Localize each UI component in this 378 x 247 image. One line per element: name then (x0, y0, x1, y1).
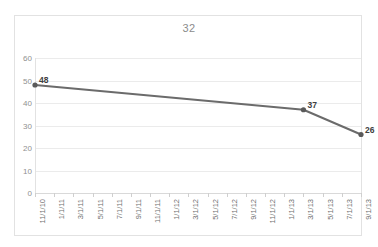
x-tick-label-13: 1/1/13 (287, 199, 296, 220)
x-tick-11 (246, 193, 247, 197)
x-tick-3 (93, 193, 94, 197)
x-tick-label-1: 1/1/11 (57, 199, 66, 219)
x-tick-label-2: 3/1/11 (76, 199, 85, 219)
x-tick-label-16: 7/1/13 (345, 199, 354, 220)
x-axis-labels: 11/1/101/1/113/1/115/1/117/1/119/1/1111/… (35, 199, 361, 245)
x-tick-16 (342, 193, 343, 197)
x-tick-14 (303, 193, 304, 197)
x-tick-label-7: 1/1/12 (172, 199, 181, 220)
x-tick-12 (265, 193, 266, 197)
y-tick-label-50: 50 (10, 76, 32, 85)
chart-container: 32 6050403020100 11/1/101/1/113/1/115/1/… (0, 0, 378, 247)
x-tick-label-5: 9/1/11 (134, 199, 143, 219)
chart-title: 32 (0, 22, 378, 34)
x-tick-label-6: 11/1/11 (153, 199, 162, 223)
y-tick-label-40: 40 (10, 99, 32, 108)
x-tick-9 (208, 193, 209, 197)
x-tick-6 (150, 193, 151, 197)
y-axis-labels: 6050403020100 (6, 0, 32, 247)
data-label-37: 37 (307, 100, 316, 110)
x-tick-1 (54, 193, 55, 197)
x-tick-label-14: 3/1/13 (306, 199, 315, 220)
x-tick-label-10: 7/1/12 (230, 199, 239, 220)
x-tick-17 (361, 193, 362, 197)
y-tick-label-60: 60 (10, 54, 32, 63)
y-tick-label-10: 10 (10, 166, 32, 175)
y-tick-label-20: 20 (10, 144, 32, 153)
x-tick-label-15: 5/1/13 (326, 199, 335, 220)
x-tick-label-17: 9/1/13 (364, 199, 373, 220)
x-tick-label-4: 7/1/11 (115, 199, 124, 219)
x-tick-0 (35, 193, 36, 197)
x-tick-label-11: 9/1/12 (249, 199, 258, 220)
data-point-marker (301, 107, 306, 112)
y-tick-label-0: 0 (10, 189, 32, 198)
data-label-48: 48 (39, 75, 48, 85)
x-tick-4 (112, 193, 113, 197)
x-tick-label-0: 11/1/10 (38, 199, 47, 223)
x-tick-15 (323, 193, 324, 197)
x-tick-label-9: 5/1/12 (211, 199, 220, 220)
x-tick-10 (227, 193, 228, 197)
x-tick-13 (284, 193, 285, 197)
data-label-26: 26 (365, 125, 374, 135)
x-tick-label-3: 5/1/11 (96, 199, 105, 219)
y-tick-label-30: 30 (10, 121, 32, 130)
x-tick-7 (169, 193, 170, 197)
x-tick-label-12: 11/1/12 (268, 199, 277, 223)
series-polyline (35, 85, 361, 135)
x-tick-2 (73, 193, 74, 197)
x-tick-5 (131, 193, 132, 197)
x-tick-8 (188, 193, 189, 197)
data-point-marker (32, 82, 37, 87)
data-point-marker (358, 132, 363, 137)
series-line-32 (35, 58, 361, 193)
x-tick-label-8: 3/1/12 (191, 199, 200, 220)
